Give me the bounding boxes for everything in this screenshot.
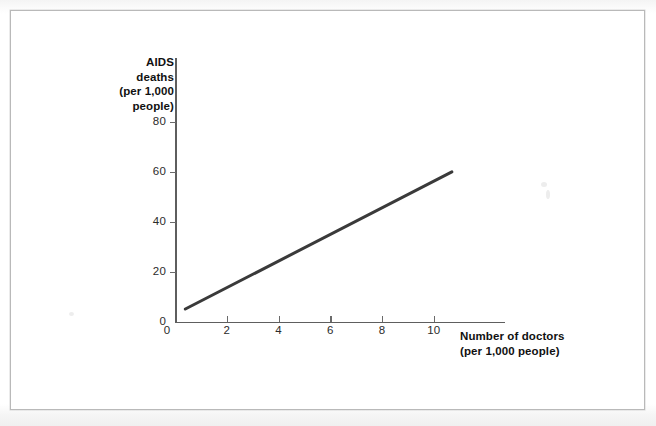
series-layer xyxy=(0,0,656,426)
data-series-line xyxy=(185,172,452,309)
figure-page: AIDS deaths (per 1,000 people) Number of… xyxy=(0,0,656,426)
plot-area: AIDS deaths (per 1,000 people) Number of… xyxy=(0,0,656,426)
series-group xyxy=(185,172,452,309)
